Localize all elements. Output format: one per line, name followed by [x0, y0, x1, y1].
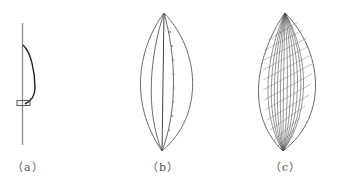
panel-c-label: （c） [270, 158, 301, 174]
midrib [162, 13, 164, 151]
panel-a [17, 23, 35, 145]
outer-right-vein [162, 13, 193, 151]
rib-curve [23, 45, 35, 104]
panel-c [258, 13, 315, 151]
panel-b-label: （b） [147, 158, 179, 174]
panel-a-label: （a） [12, 158, 44, 174]
outer-left-vein [141, 13, 164, 151]
panel-b [141, 13, 193, 151]
